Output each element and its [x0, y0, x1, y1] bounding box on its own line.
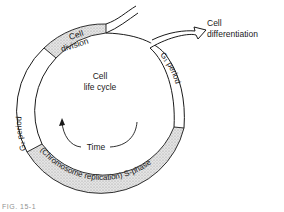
differentiation-arrow — [150, 27, 206, 48]
cell-cycle-diagram: Cell division G₁ period (Chromosome repl… — [0, 0, 284, 212]
center-label-line1: Cell — [93, 71, 108, 81]
label-g2-period: G₂ period — [14, 116, 28, 152]
branch-label-line1: Cell — [207, 18, 222, 28]
branch-label-line2: differentiation — [207, 29, 258, 39]
center-label-line2: life cycle — [84, 82, 117, 92]
label-g1-period: G₁ period — [158, 51, 182, 85]
branch-line-upper — [106, 6, 136, 24]
ring-inner-left — [35, 58, 56, 144]
time-arrowhead-icon — [59, 118, 65, 126]
time-arc — [62, 122, 81, 147]
time-arc-right — [110, 122, 137, 147]
time-label: Time — [87, 142, 106, 152]
figure-caption: FIG. 15-1 — [2, 203, 36, 210]
